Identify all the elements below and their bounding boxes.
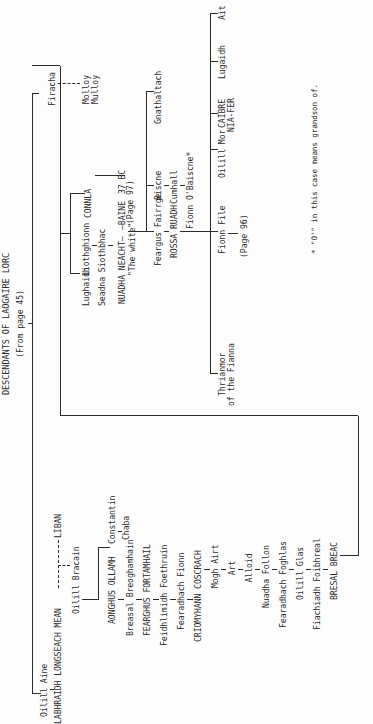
person-gnathaltach: Gnathaltach <box>154 71 163 124</box>
person-ait: Ait <box>218 6 227 21</box>
person-firacha: Firacha <box>48 72 57 106</box>
connector <box>118 599 124 600</box>
person-feargus-fairrge: Feargus Fairrge <box>154 194 163 266</box>
person-baine: —BAINE <box>118 201 127 230</box>
connector <box>98 547 110 548</box>
person-nuadha-follon: Nuadha Follon <box>262 545 271 608</box>
person-oilill-glas: Oilill Glas <box>296 547 305 600</box>
person-feidhlimidh-foethruin: Feidhlimidh Foethruin <box>160 545 169 646</box>
connector <box>70 194 71 274</box>
connector <box>272 569 277 570</box>
connector <box>289 569 294 570</box>
person-fiachiadh-foibhreal: Fiachiadh Foibhreal <box>313 538 322 630</box>
person-nuadha-neacht: NUADHA NEACHT— <box>118 236 127 304</box>
document-subtitle: (From page 45) <box>16 290 25 358</box>
connector <box>238 569 243 570</box>
person-art: Art <box>228 561 237 576</box>
person-aonghus-ollamh: AONGHUS OLLAMH <box>108 556 117 624</box>
connector <box>98 548 99 600</box>
person-caibre-epithet: NIA-FER <box>227 98 236 132</box>
person-liban: LIBAN <box>54 514 63 538</box>
connector <box>58 565 70 566</box>
baine-date: 37 BC <box>118 170 127 194</box>
connector <box>255 569 260 570</box>
connector <box>228 233 238 234</box>
page-ref-97: (Page 97) <box>126 181 135 224</box>
marriage-dashed-line <box>58 540 59 588</box>
connector <box>128 231 146 232</box>
connector <box>210 114 211 374</box>
branch-line <box>60 66 61 416</box>
person-fearadhach-fionn: Fearadhach Fionn <box>177 553 186 630</box>
connector <box>32 65 60 66</box>
person-alloid: Alloid <box>245 554 254 583</box>
connector <box>340 555 358 556</box>
person-chaba: Chaba <box>122 516 131 540</box>
person-oilill-mor: Oilill Mor <box>218 130 227 178</box>
person-lugaidh: Lugaidh <box>218 45 227 79</box>
connector <box>210 14 211 114</box>
connector <box>58 83 80 84</box>
trunk-line <box>32 94 33 694</box>
connector <box>146 92 147 232</box>
connector <box>358 416 359 556</box>
connector <box>82 599 98 600</box>
person-cumhall: Cumhall <box>170 170 179 204</box>
person-oilill-bracain: Oilill Bracain <box>72 546 81 614</box>
person-fearadhach-foghlas: Fearadhach Foghlas <box>279 541 288 628</box>
person-criomthann-coscrach: CRIOMYHANN COSCRACH <box>194 550 203 642</box>
branch-line <box>60 415 358 416</box>
person-fionn-file: Fionn File <box>218 206 227 254</box>
person-bresal-breac: BRESAL BREAC <box>330 542 339 600</box>
person-rossa-ruadh: ROSSA RUADH <box>170 205 179 258</box>
person-seadna-siothbhac: Seadna Siothbhac <box>98 229 107 306</box>
person-labhraidh: LABHRAIDH LONGSEACH MEAN <box>54 608 63 724</box>
connector <box>70 273 80 274</box>
connector <box>221 569 226 570</box>
connector <box>323 569 328 570</box>
connector <box>32 93 39 94</box>
page-ref-96: (Page 96) <box>240 215 249 258</box>
connector <box>306 569 311 570</box>
document-title: DESCENDANTS OF LAOGAIRE LORC <box>2 253 11 395</box>
person-thrianmor-epithet: of the Fianna <box>227 343 236 406</box>
person-oilill-aine: Oilill Aine <box>40 664 49 717</box>
person-connla: CONNLA <box>84 189 93 218</box>
person-breasal-breoghamhain: Breasal Breoghamhain <box>126 539 135 636</box>
connector <box>108 245 113 246</box>
connector <box>60 233 70 234</box>
connector <box>180 231 210 232</box>
person-fionn-obaiscne: Fionn O'Baiscne* <box>186 152 195 229</box>
person-mogh-airt: Mogh Airt <box>211 545 220 588</box>
person-constantin: Constantin <box>108 496 117 544</box>
genealogy-page: DESCENDANTS OF LAOGAIRE LORC (From page … <box>0 0 373 724</box>
person-mulloy: Mulloy <box>91 75 100 104</box>
footnote: * "O'" in this case means grandson of. <box>310 84 319 254</box>
person-fearghus-fortamhail: FEARGHUS FORTAMHAIL <box>143 544 152 636</box>
person-liothghionn: Liothghionn <box>82 223 91 276</box>
